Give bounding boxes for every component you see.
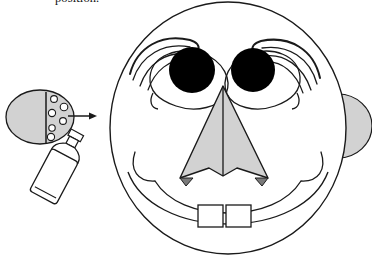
left-eye-pupil: [169, 47, 215, 93]
face-spray-illustration: [0, 0, 372, 256]
figure-root: position.: [0, 0, 372, 256]
right-eye-pupil: [231, 48, 275, 92]
spray-cloud: [6, 90, 74, 144]
